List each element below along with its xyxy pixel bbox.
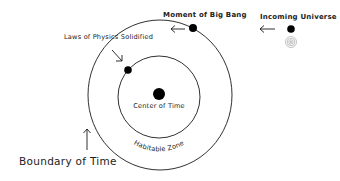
center-of-time-label: Center of Time [133,102,185,110]
arrow-down-right-icon [112,50,122,61]
incoming-universe-label: Incoming Universe [260,13,337,21]
center-of-time-dot [153,88,165,100]
arrow-up-icon [84,129,91,150]
incoming-universe-dot [287,25,295,33]
incoming-arrow-left-icon [260,26,275,33]
big-bang-label: Moment of Big Bang [163,11,247,19]
laws-of-physics-dot [124,66,132,74]
boundary-of-time-label: Boundary of Time [19,155,117,167]
diagram-canvas: Center of Time Habitable Zone Laws of Ph… [0,0,340,181]
concentric-rings-icon [286,37,297,48]
laws-of-physics-label: Laws of Physics Solidified [64,33,153,41]
arrow-left-icon [171,26,185,33]
big-bang-dot [189,24,197,32]
habitable-zone-label: Habitable Zone [133,139,186,154]
